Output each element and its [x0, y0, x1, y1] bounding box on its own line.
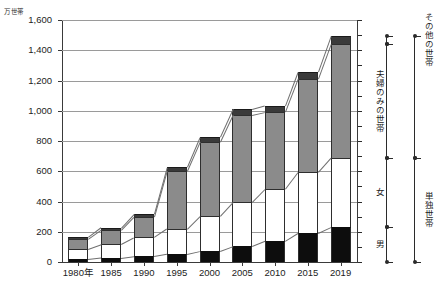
y-axis-tick	[58, 20, 62, 21]
legend-label-onna: 女	[374, 188, 383, 197]
bar-segment-fufu	[167, 171, 187, 229]
bar-segment-otoko	[265, 241, 285, 262]
bar-segment-sonota	[298, 72, 318, 79]
x-axis-tick-label: 2019	[319, 268, 363, 278]
bar-stack	[68, 20, 88, 262]
y-axis-tick	[58, 262, 62, 263]
bar-stack	[331, 20, 351, 262]
right-axis-tick	[358, 141, 362, 142]
right-axis-tick	[358, 96, 362, 97]
legend-label-sonota: その他の世帯	[423, 13, 432, 67]
y-axis-tick-label: 600	[6, 166, 52, 175]
right-axis-tick	[358, 81, 362, 82]
y-axis-tick-label: 0	[6, 257, 52, 266]
right-axis-tick	[358, 217, 362, 218]
bar-stack	[134, 20, 154, 262]
bar-stack	[232, 20, 252, 262]
bar-segment-sonota	[101, 228, 121, 231]
y-axis-tick-label: 200	[6, 227, 52, 236]
bar-segment-fufu	[331, 44, 351, 158]
bar-segment-sonota	[200, 137, 220, 142]
right-axis-tick	[358, 111, 362, 112]
bar-segment-sonota	[134, 214, 154, 217]
bar-segment-onna	[167, 229, 187, 254]
legend-label-tandoku: 単独世帯	[423, 192, 432, 228]
x-axis-tick	[144, 262, 145, 266]
bar-segment-otoko	[298, 233, 318, 262]
bar-segment-otoko	[232, 246, 252, 262]
y-axis-tick-label: 1,600	[6, 15, 52, 24]
bar-segment-onna	[200, 216, 220, 251]
bar-segment-sonota	[232, 109, 252, 114]
bar-segment-otoko	[331, 227, 351, 262]
bar-stack	[298, 20, 318, 262]
right-axis-tick	[358, 156, 362, 157]
bar-stack	[265, 20, 285, 262]
bar-segment-fufu	[265, 112, 285, 189]
x-axis-tick	[275, 262, 276, 266]
x-axis-tick	[78, 262, 79, 266]
bar-segment-sonota	[331, 36, 351, 44]
y-axis-tick-label: 800	[6, 136, 52, 145]
x-axis-tick	[111, 262, 112, 266]
chart-title	[70, 0, 380, 4]
y-axis-tick-label: 1,000	[6, 106, 52, 115]
bar-segment-fufu	[101, 230, 121, 244]
bar-segment-otoko	[200, 251, 220, 262]
x-axis-tick	[210, 262, 211, 266]
y-axis-tick	[58, 171, 62, 172]
y-axis-tick-label: 1,200	[6, 76, 52, 85]
bar-segment-fufu	[232, 115, 252, 203]
right-axis-tick	[358, 35, 362, 36]
bar-segment-onna	[331, 158, 351, 227]
bar-segment-sonota	[167, 167, 187, 171]
bar-stack	[167, 20, 187, 262]
bar-segment-onna	[265, 189, 285, 241]
bar-segment-sonota	[265, 106, 285, 112]
chart-root: 万世帯 02004006008001,0001,2001,4001,600 19…	[0, 0, 440, 288]
bar-stack	[200, 20, 220, 262]
bar-segment-onna	[68, 249, 88, 259]
right-axis-tick	[358, 232, 362, 233]
bar-segment-otoko	[68, 259, 88, 262]
legend-label-otoko: 男	[374, 240, 383, 249]
bar-segment-fufu	[134, 217, 154, 237]
bar-segment-sonota	[68, 237, 88, 239]
y-axis-tick-label: 400	[6, 197, 52, 206]
bar-segment-onna	[298, 172, 318, 233]
right-axis-tick	[358, 65, 362, 66]
bar-segment-fufu	[68, 239, 88, 248]
bar-segment-onna	[134, 237, 154, 255]
right-axis-tick	[358, 50, 362, 51]
x-axis-tick	[341, 262, 342, 266]
bar-segment-onna	[232, 202, 252, 246]
right-axis-tick	[358, 186, 362, 187]
y-axis-tick	[58, 141, 62, 142]
bar-segment-otoko	[167, 254, 187, 262]
y-axis-tick-label: 1,400	[6, 45, 52, 54]
legend-label-fufu: 夫婦のみの世帯	[374, 70, 383, 133]
bar-segment-onna	[101, 244, 121, 258]
y-axis-tick	[58, 81, 62, 82]
x-axis-tick	[308, 262, 309, 266]
right-axis-tick	[358, 171, 362, 172]
y-axis-tick	[58, 50, 62, 51]
x-axis-tick	[242, 262, 243, 266]
right-axis-tick	[358, 202, 362, 203]
bar-segment-fufu	[298, 79, 318, 173]
bar-segment-otoko	[101, 258, 121, 262]
y-axis-tick	[58, 111, 62, 112]
right-axis-tick	[358, 126, 362, 127]
right-axis-tick	[358, 20, 362, 21]
x-axis-tick	[177, 262, 178, 266]
y-axis-tick	[58, 202, 62, 203]
y-axis-tick	[58, 232, 62, 233]
bar-segment-fufu	[200, 142, 220, 216]
right-axis-tick	[358, 247, 362, 248]
bar-segment-otoko	[134, 256, 154, 262]
bar-stack	[101, 20, 121, 262]
right-axis-tick	[358, 262, 362, 263]
